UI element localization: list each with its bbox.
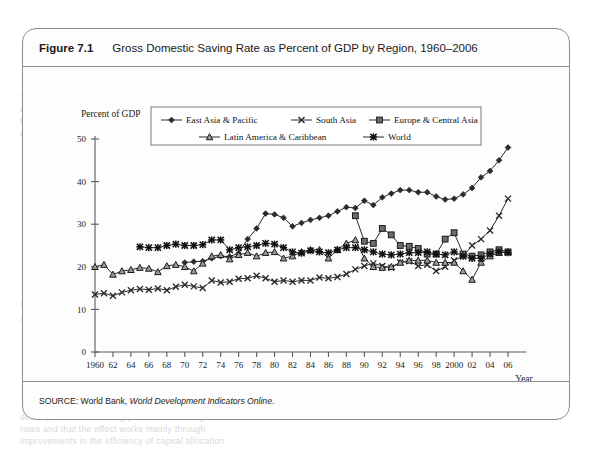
series-marker[interactable] xyxy=(173,261,180,267)
x-tick-label[interactable]: 06 xyxy=(504,360,514,370)
figure-container: Figure 7.1 Gross Domestic Saving Rate as… xyxy=(22,28,570,420)
series-marker[interactable] xyxy=(253,253,260,259)
y-tick-label[interactable]: 0 xyxy=(82,347,87,357)
legend-marker-square[interactable] xyxy=(377,117,383,123)
source-suffix: . xyxy=(272,396,274,406)
x-tick-label[interactable]: 94 xyxy=(396,360,406,370)
y-tick-label[interactable]: 40 xyxy=(77,177,87,187)
series-marker[interactable] xyxy=(352,237,359,243)
y-tick-label[interactable]: 30 xyxy=(77,219,87,229)
legend-label[interactable]: Latin America & Caribbean xyxy=(224,132,327,142)
figure-source-bar: SOURCE: World Bank, World Development In… xyxy=(23,381,569,419)
series-marker[interactable] xyxy=(101,261,108,267)
chart-plot-area: 0102030405019606264666870727476788082848… xyxy=(23,67,571,383)
series-marker[interactable] xyxy=(343,204,349,210)
legend-label[interactable]: Europe & Central Asia xyxy=(394,115,478,125)
series-latin-america-caribbean[interactable] xyxy=(92,237,512,283)
y-axis-title[interactable]: Percent of GDP xyxy=(81,109,140,119)
x-tick-label[interactable]: 62 xyxy=(108,360,117,370)
series-world[interactable] xyxy=(136,236,511,262)
series-marker[interactable] xyxy=(442,236,448,242)
source-prefix: SOURCE: World Bank, xyxy=(39,396,130,406)
series-marker[interactable] xyxy=(155,269,162,275)
series-marker[interactable] xyxy=(271,249,278,255)
series-marker[interactable] xyxy=(451,196,457,202)
source-note: SOURCE: World Bank, World Development In… xyxy=(39,396,274,406)
series-marker[interactable] xyxy=(326,213,332,219)
x-tick-label[interactable]: 66 xyxy=(144,360,154,370)
x-tick-label[interactable]: 72 xyxy=(198,360,207,370)
series-marker[interactable] xyxy=(406,243,412,249)
legend-label[interactable]: East Asia & Pacific xyxy=(186,115,258,125)
y-tick-label[interactable]: 20 xyxy=(77,262,87,272)
series-marker[interactable] xyxy=(370,240,376,246)
x-tick-label[interactable]: 2000 xyxy=(445,360,464,370)
series-marker[interactable] xyxy=(397,187,403,193)
x-tick-label[interactable]: 88 xyxy=(342,360,352,370)
series-marker[interactable] xyxy=(361,255,368,261)
x-tick-label[interactable]: 74 xyxy=(216,360,226,370)
series-marker[interactable] xyxy=(415,189,421,195)
series-marker[interactable] xyxy=(406,187,412,193)
legend-label[interactable]: South Asia xyxy=(316,115,356,125)
x-tick-label[interactable]: 1960 xyxy=(86,360,105,370)
series-marker[interactable] xyxy=(379,226,385,232)
series-marker[interactable] xyxy=(272,212,278,218)
series-marker[interactable] xyxy=(352,213,358,219)
figure-title: Gross Domestic Saving Rate as Percent of… xyxy=(112,42,477,54)
series-marker[interactable] xyxy=(308,217,314,223)
x-tick-label[interactable]: 78 xyxy=(252,360,262,370)
series-marker[interactable] xyxy=(451,230,457,236)
series-marker[interactable] xyxy=(424,189,430,195)
x-tick-label[interactable]: 84 xyxy=(306,360,316,370)
x-tick-label[interactable]: 70 xyxy=(180,360,190,370)
series-marker[interactable] xyxy=(433,194,439,200)
series-marker[interactable] xyxy=(397,243,403,249)
series-marker[interactable] xyxy=(299,220,305,226)
series-line[interactable] xyxy=(140,240,508,258)
figure-number: Figure 7.1 xyxy=(39,42,93,54)
legend-label[interactable]: World xyxy=(388,132,411,142)
y-tick-label[interactable]: 50 xyxy=(77,134,87,144)
series-marker[interactable] xyxy=(388,191,394,197)
x-tick-label[interactable]: 96 xyxy=(414,360,424,370)
x-tick-label[interactable]: 82 xyxy=(288,360,297,370)
line-chart: 0102030405019606264666870727476788082848… xyxy=(23,67,571,383)
series-marker[interactable] xyxy=(442,197,448,203)
x-tick-label[interactable]: 98 xyxy=(432,360,442,370)
series-marker[interactable] xyxy=(361,238,367,244)
x-tick-label[interactable]: 02 xyxy=(468,360,477,370)
x-tick-label[interactable]: 64 xyxy=(126,360,136,370)
x-tick-label[interactable]: 92 xyxy=(378,360,387,370)
series-marker[interactable] xyxy=(191,259,197,265)
chart-legend[interactable]: East Asia & PacificSouth AsiaEurope & Ce… xyxy=(151,107,481,145)
x-tick-label[interactable]: 90 xyxy=(360,360,370,370)
figure-title-bar: Figure 7.1 Gross Domestic Saving Rate as… xyxy=(23,29,569,67)
series-marker[interactable] xyxy=(335,209,341,215)
series-marker[interactable] xyxy=(388,232,394,238)
x-tick-label[interactable]: 68 xyxy=(162,360,172,370)
series-marker[interactable] xyxy=(137,264,144,270)
x-tick-label[interactable]: 04 xyxy=(486,360,496,370)
y-tick-label[interactable]: 10 xyxy=(77,305,87,315)
x-tick-label[interactable]: 80 xyxy=(270,360,280,370)
series-marker[interactable] xyxy=(217,252,224,258)
series-marker[interactable] xyxy=(263,211,269,217)
x-tick-label[interactable]: 86 xyxy=(324,360,334,370)
series-marker[interactable] xyxy=(317,215,323,221)
source-publication: World Development Indicators Online xyxy=(130,396,272,406)
x-tick-label[interactable]: 76 xyxy=(234,360,244,370)
